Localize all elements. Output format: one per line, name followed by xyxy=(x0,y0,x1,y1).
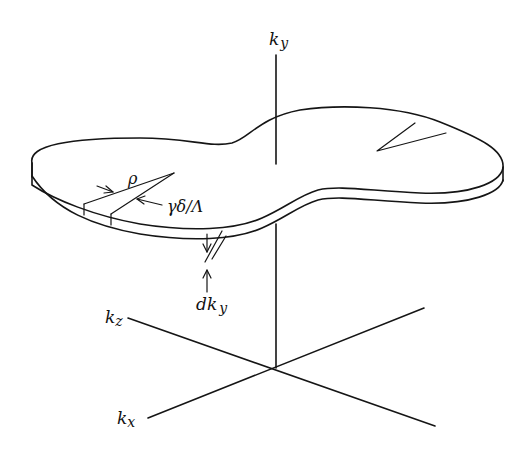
ky-label: ky xyxy=(269,29,289,51)
wedge-right xyxy=(377,123,446,151)
kx-label: kx xyxy=(117,408,135,430)
kz-axis xyxy=(128,318,435,426)
wedge-left-line-b xyxy=(111,173,174,214)
slab-top-surface xyxy=(32,107,503,229)
diagram-canvas: ky kz kx ρ γδ/Λ dky xyxy=(0,0,530,450)
kz-label: kz xyxy=(105,307,123,329)
rho-arrow xyxy=(97,186,113,192)
angle-label: γδ/Λ xyxy=(167,197,203,216)
rho-label: ρ xyxy=(127,169,138,188)
kspace-slab-diagram: ky kz kx ρ γδ/Λ dky xyxy=(0,0,530,450)
slab-bottom-edge xyxy=(32,176,503,239)
dky-label: dky xyxy=(196,294,228,316)
kx-axis xyxy=(148,308,424,418)
dky-mark-b xyxy=(212,236,226,259)
